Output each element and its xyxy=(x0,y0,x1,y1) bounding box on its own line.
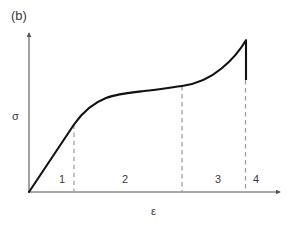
region-label-3: 3 xyxy=(215,174,221,185)
region-label-2: 2 xyxy=(122,174,128,185)
y-axis-label: σ xyxy=(12,111,19,122)
plot-canvas xyxy=(0,0,293,225)
stress-strain-curve xyxy=(29,40,246,192)
region-label-1: 1 xyxy=(59,174,65,185)
stress-strain-figure: (b) σ ε 1 2 3 4 xyxy=(0,0,293,225)
region-label-4: 4 xyxy=(253,174,259,185)
panel-label: (b) xyxy=(11,9,27,22)
x-axis-label: ε xyxy=(151,206,156,217)
